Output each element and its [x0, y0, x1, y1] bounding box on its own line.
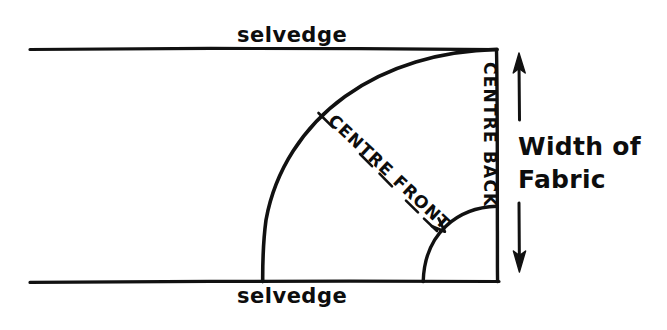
width-of-fabric-label-line2: Fabric [518, 165, 606, 194]
selvedge-top-label: selvedge [237, 23, 347, 47]
centre-back-label-group: CENTRE BACK [480, 62, 500, 208]
selvedge-bottom-line [30, 281, 499, 282]
width-of-fabric-label-line1: Width of [518, 132, 642, 161]
width-of-fabric-arrow [513, 53, 525, 272]
diagram-canvas: CENTRE FRONT CENTRE BACK selvedge selved… [0, 0, 667, 330]
centre-front-label-group: CENTRE FRONT [324, 110, 455, 234]
selvedge-bottom-label: selvedge [237, 284, 347, 308]
fabric-layout-diagram: CENTRE FRONT CENTRE BACK selvedge selved… [0, 0, 667, 330]
centre-front-label: CENTRE FRONT [324, 110, 455, 234]
centre-back-label: CENTRE BACK [480, 62, 500, 208]
selvedge-top-line [30, 48, 497, 49]
